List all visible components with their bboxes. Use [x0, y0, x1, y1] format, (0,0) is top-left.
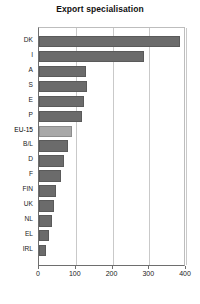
bar-nl — [39, 215, 52, 226]
bar-row — [39, 229, 186, 244]
y-axis-label-irl: IRL — [0, 245, 35, 252]
x-tick-0 — [38, 266, 39, 269]
bar-d — [39, 155, 64, 166]
bar-row — [39, 214, 186, 229]
bar-fin — [39, 185, 56, 196]
x-tick-300 — [148, 266, 149, 269]
bar-uk — [39, 200, 54, 211]
x-tick-label-200: 200 — [99, 270, 125, 278]
y-axis-label-uk: UK — [0, 200, 35, 207]
bar-s — [39, 81, 87, 92]
bar-irl — [39, 245, 46, 256]
bar-el — [39, 230, 49, 241]
bar-row — [39, 199, 186, 214]
bar-row — [39, 244, 186, 259]
y-axis-label-s: S — [0, 81, 35, 88]
bar-row — [39, 94, 186, 109]
bar-row — [39, 184, 186, 199]
y-axis-label-dk: DK — [0, 36, 35, 43]
x-tick-label-300: 300 — [135, 270, 161, 278]
y-axis-label-nl: NL — [0, 215, 35, 222]
bar-a — [39, 66, 86, 77]
bar-row — [39, 154, 186, 169]
bar-row — [39, 35, 186, 50]
x-tick-label-400: 400 — [172, 270, 198, 278]
y-axis-label-eu-15: EU-15 — [0, 126, 35, 133]
bar-row — [39, 65, 186, 80]
x-tick-label-0: 0 — [25, 270, 51, 278]
bar-row — [39, 50, 186, 65]
y-axis-label-i: I — [0, 51, 35, 58]
x-tick-label-100: 100 — [62, 270, 88, 278]
x-tick-100 — [75, 266, 76, 269]
bar-b-l — [39, 140, 68, 151]
gridline-400 — [186, 28, 187, 265]
x-tick-400 — [185, 266, 186, 269]
bar-row — [39, 139, 186, 154]
y-axis-label-p: P — [0, 111, 35, 118]
y-axis-category-labels: DKIASEPEU-15B/LDFFINUKNLELIRL — [0, 27, 35, 266]
bar-row — [39, 169, 186, 184]
plot-area — [38, 27, 185, 266]
y-axis-label-d: D — [0, 155, 35, 162]
y-axis-label-b-l: B/L — [0, 140, 35, 147]
x-tick-200 — [112, 266, 113, 269]
bar-row — [39, 109, 186, 124]
bar-p — [39, 111, 82, 122]
y-axis-label-f: F — [0, 170, 35, 177]
bar-f — [39, 170, 61, 181]
y-axis-label-el: EL — [0, 230, 35, 237]
bar-row — [39, 80, 186, 95]
chart-title: Export specialisation — [0, 4, 200, 14]
y-axis-label-e: E — [0, 96, 35, 103]
y-axis-label-fin: FIN — [0, 185, 35, 192]
bars-layer — [39, 28, 184, 265]
bar-i — [39, 51, 144, 62]
bar-eu-15 — [39, 126, 72, 137]
bar-row — [39, 124, 186, 139]
bar-dk — [39, 36, 180, 47]
export-specialisation-chart: Export specialisation DKIASEPEU-15B/LDFF… — [0, 0, 200, 304]
y-axis-label-a: A — [0, 66, 35, 73]
bar-e — [39, 96, 84, 107]
